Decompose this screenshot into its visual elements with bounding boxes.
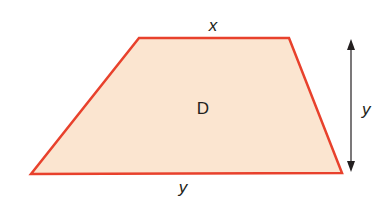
trapezium-diagram: x D y y [0, 0, 392, 213]
trapezium-shape [31, 38, 342, 174]
bottom-side-label: y [178, 178, 189, 197]
top-side-label: x [208, 16, 218, 35]
region-label: D [197, 99, 209, 118]
arrow-down-icon [347, 161, 355, 172]
height-label: y [361, 100, 372, 119]
arrow-up-icon [347, 39, 355, 50]
